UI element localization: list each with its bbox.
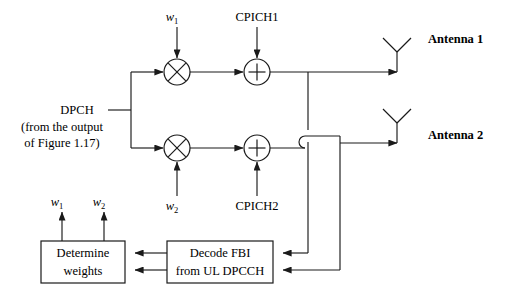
weight-input-bottom-subscript: 2 [174,205,178,215]
determine-weights-line2: weights [64,264,103,278]
weight-output-left-subscript: 1 [59,201,63,211]
cpich2-label: CPICH2 [235,199,278,213]
antenna-2-icon [383,109,397,123]
diagram-canvas: Decode FBI from UL DPCCH Determine weigh… [0,0,506,307]
antenna-1-label: Antenna 1 [428,32,483,46]
decode-fbi-line2: from UL DPCCH [176,264,264,278]
dpch-source-label-line1: DPCH [60,103,93,117]
dpch-source-label-line2: (from the output [21,120,103,134]
wire-hop-symbol [299,136,305,148]
weight-input-top-label: w1 [166,10,179,26]
weight-output-right-label: w2 [93,195,106,211]
cpich1-label: CPICH1 [235,10,278,24]
antenna-2-label: Antenna 2 [428,128,483,142]
determine-weights-line1: Determine [57,246,110,260]
dpch-source-label-line3: of Figure 1.17) [24,136,99,150]
weight-output-right-subscript: 2 [101,201,105,211]
transmit-diversity-block-diagram: Decode FBI from UL DPCCH Determine weigh… [0,0,506,307]
weight-output-left-label: w1 [51,195,64,211]
antenna-1-icon [383,38,397,52]
antenna-2-icon [397,109,411,123]
decode-fbi-line1: Decode FBI [190,246,251,260]
weight-input-bottom-label: w2 [166,199,179,215]
weight-input-top-subscript: 1 [174,16,178,26]
antenna-1-icon [397,38,411,52]
